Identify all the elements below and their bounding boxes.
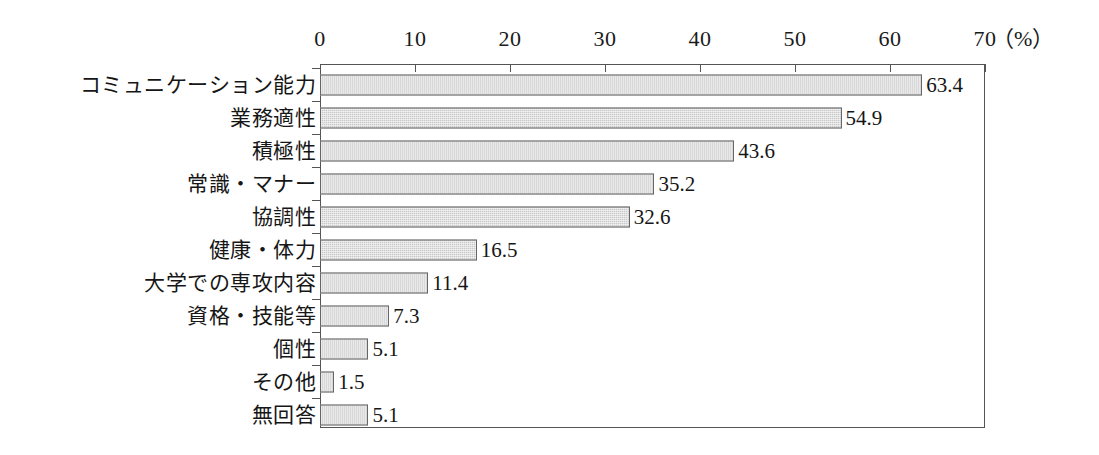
bar-value-label: 43.6 xyxy=(738,138,775,163)
x-tick-label: 20 xyxy=(499,26,522,52)
x-tick-label: 10 xyxy=(404,26,427,52)
bar-row: その他1.5 xyxy=(0,365,1099,398)
y-tick-mark xyxy=(312,167,320,168)
bar xyxy=(320,371,334,392)
bar-row: 協調性32.6 xyxy=(0,200,1099,233)
x-tick-label: 50 xyxy=(784,26,807,52)
bar xyxy=(320,107,842,128)
y-tick-mark xyxy=(312,200,320,201)
y-tick-mark xyxy=(312,332,320,333)
x-tick-label: 40 xyxy=(689,26,712,52)
y-tick-mark xyxy=(312,365,320,366)
bar xyxy=(320,338,368,359)
bar-value-label: 5.1 xyxy=(372,336,398,361)
bar-row: コミュニケーション能力63.4 xyxy=(0,68,1099,101)
axis-unit-label: （%） xyxy=(992,26,1054,52)
y-tick-mark xyxy=(312,233,320,234)
bar-row: 健康・体力16.5 xyxy=(0,233,1099,266)
bar-value-label: 7.3 xyxy=(393,303,419,328)
bar-row: 常識・マナー35.2 xyxy=(0,167,1099,200)
bar-value-label: 35.2 xyxy=(658,171,695,196)
category-label: 協調性 xyxy=(252,204,317,229)
bar xyxy=(320,239,477,260)
x-tick-mark xyxy=(700,64,701,72)
category-label: コミュニケーション能力 xyxy=(80,72,317,97)
x-tick-mark xyxy=(320,64,321,72)
x-tick-mark xyxy=(415,64,416,72)
category-label: 個性 xyxy=(273,336,316,361)
x-tick-mark xyxy=(510,64,511,72)
bar-row: 無回答5.1 xyxy=(0,398,1099,431)
category-label: 大学での専攻内容 xyxy=(144,270,316,295)
x-tick-mark xyxy=(890,64,891,72)
category-label: 積極性 xyxy=(252,138,317,163)
bar-value-label: 63.4 xyxy=(926,72,963,97)
category-label: 無回答 xyxy=(252,402,317,427)
y-tick-mark xyxy=(312,398,320,399)
category-label: 常識・マナー xyxy=(187,171,316,196)
bar xyxy=(320,404,368,425)
bar xyxy=(320,173,654,194)
category-label: 資格・技能等 xyxy=(187,303,316,328)
bar-value-label: 16.5 xyxy=(481,237,518,262)
y-tick-mark xyxy=(312,134,320,135)
bar-row: 大学での専攻内容11.4 xyxy=(0,266,1099,299)
x-tick-mark xyxy=(985,64,986,72)
x-tick-mark xyxy=(605,64,606,72)
category-label: 業務適性 xyxy=(230,105,316,130)
bar xyxy=(320,140,734,161)
bar-row: 個性5.1 xyxy=(0,332,1099,365)
x-tick-label: 30 xyxy=(594,26,617,52)
x-tick-label: 60 xyxy=(879,26,902,52)
bar-value-label: 1.5 xyxy=(338,369,364,394)
y-tick-mark xyxy=(312,299,320,300)
y-tick-mark xyxy=(312,68,320,69)
bar-row: 業務適性54.9 xyxy=(0,101,1099,134)
bar-rows-container: コミュニケーション能力63.4業務適性54.9積極性43.6常識・マナー35.2… xyxy=(0,64,1099,428)
bar xyxy=(320,305,389,326)
bar xyxy=(320,206,630,227)
y-tick-mark xyxy=(312,266,320,267)
y-tick-mark xyxy=(312,101,320,102)
x-axis-tick-labels: 010203040506070（%） xyxy=(0,26,1099,56)
bar-value-label: 5.1 xyxy=(372,402,398,427)
horizontal-bar-chart: 010203040506070（%） コミュニケーション能力63.4業務適性54… xyxy=(0,0,1099,455)
bar-row: 積極性43.6 xyxy=(0,134,1099,167)
x-tick-mark xyxy=(795,64,796,72)
bar-value-label: 11.4 xyxy=(432,270,468,295)
bar-row: 資格・技能等7.3 xyxy=(0,299,1099,332)
bar xyxy=(320,272,428,293)
x-tick-label: 0 xyxy=(314,26,326,52)
bar xyxy=(320,74,922,95)
bar-value-label: 54.9 xyxy=(846,105,883,130)
category-label: 健康・体力 xyxy=(209,237,317,262)
bar-value-label: 32.6 xyxy=(634,204,671,229)
category-label: その他 xyxy=(252,369,317,394)
